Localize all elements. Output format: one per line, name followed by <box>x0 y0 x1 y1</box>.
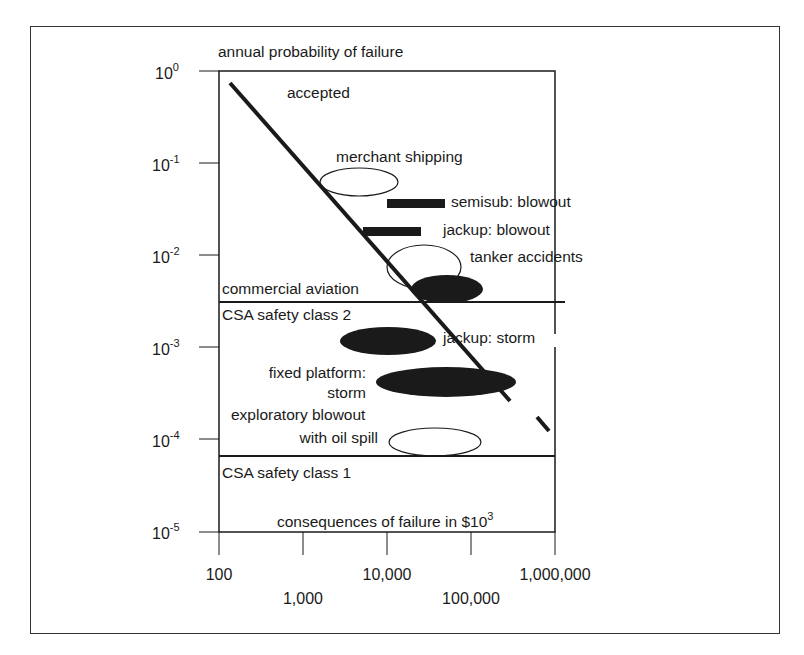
label-csa-class-1: CSA safety class 1 <box>222 464 351 481</box>
label-jackup-storm: jackup: storm <box>442 329 535 346</box>
svg-text:1,000,000: 1,000,000 <box>519 566 590 583</box>
svg-text:100,000: 100,000 <box>442 590 500 607</box>
y-axis <box>199 71 219 532</box>
region-merchant-shipping <box>320 168 398 196</box>
svg-text:10-2: 10-2 <box>152 245 180 266</box>
svg-text:10-5: 10-5 <box>152 521 180 542</box>
label-csa-class-2: CSA safety class 2 <box>222 306 351 323</box>
label-semisub-blowout: semisub: blowout <box>451 193 571 210</box>
svg-text:10-3: 10-3 <box>152 337 180 358</box>
label-commercial-aviation: commercial aviation <box>222 280 359 297</box>
label-accepted: accepted <box>287 84 350 101</box>
svg-text:1,000: 1,000 <box>283 590 323 607</box>
x-tick-labels: 100 1,000 10,000 100,000 1,000,000 <box>206 566 591 607</box>
label-tanker-accidents: tanker accidents <box>470 248 583 265</box>
svg-text:10-4: 10-4 <box>152 429 180 450</box>
region-jackup-blowout <box>363 227 421 236</box>
label-fixed-platform-2: storm <box>327 384 366 401</box>
svg-text:10-1: 10-1 <box>152 153 180 174</box>
region-jackup-storm <box>340 327 436 355</box>
svg-text:10,000: 10,000 <box>363 566 412 583</box>
svg-text:100: 100 <box>206 566 233 583</box>
y-tick-labels: 100 10-1 10-2 10-3 10-4 10-5 <box>152 61 180 542</box>
region-semisub-blowout <box>387 199 445 208</box>
label-exploratory-1: exploratory blowout <box>231 406 366 423</box>
accepted-risk-line-dash <box>537 417 549 431</box>
label-exploratory-2: with oil spill <box>299 429 378 446</box>
x-axis <box>219 532 555 555</box>
risk-chart: 100 10-1 10-2 10-3 10-4 10-5 100 1,000 1… <box>0 0 804 655</box>
label-fixed-platform-1: fixed platform: <box>269 364 366 381</box>
y-axis-label: annual probability of failure <box>218 43 403 60</box>
svg-text:100: 100 <box>155 61 179 82</box>
label-jackup-blowout: jackup: blowout <box>442 221 551 238</box>
label-merchant-shipping: merchant shipping <box>336 148 463 165</box>
x-axis-label: consequences of failure in $103 <box>277 510 493 530</box>
region-exploratory-blowout <box>389 428 481 456</box>
